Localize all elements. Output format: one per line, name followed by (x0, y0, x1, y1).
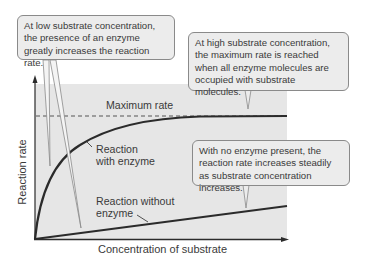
without-enzyme-label-line2: enzyme (96, 207, 133, 220)
callout-low-tails (43, 60, 81, 228)
line-without-enzyme (35, 206, 287, 239)
with-enzyme-label-line1: Reaction (96, 143, 138, 156)
leader-with-enzyme (86, 141, 92, 147)
y-axis-label: Reaction rate (16, 137, 28, 207)
callout-no-enzyme: With no enzyme present, the reaction rat… (192, 140, 350, 186)
x-axis-label: Concentration of substrate (98, 243, 227, 255)
callout-low-concentration: At low substrate concentration, the pres… (17, 15, 175, 60)
callout-high-concentration: At high substrate concentration, the max… (188, 32, 349, 91)
without-enzyme-label-line1: Reaction without (96, 195, 174, 208)
y-axis-arrow-icon (33, 75, 38, 83)
leader-without-enzyme (137, 215, 148, 222)
with-enzyme-label-line2: with enzyme (96, 155, 155, 168)
callout-none-text: With no enzyme present, the reaction rat… (199, 145, 331, 193)
callout-high-tail (245, 90, 251, 109)
callout-none-tail (243, 185, 249, 208)
max-rate-label: Maximum rate (106, 99, 173, 112)
x-axis-arrow-icon (281, 237, 289, 242)
callout-high-text: At high substrate concentration, the max… (195, 37, 330, 97)
